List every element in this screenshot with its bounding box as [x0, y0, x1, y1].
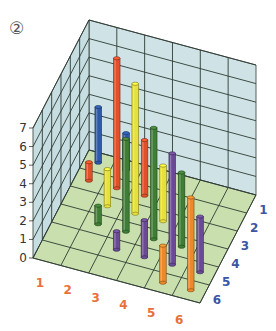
- bar-top: [123, 137, 130, 140]
- bar-body: [141, 140, 148, 196]
- bar-highlight: [151, 128, 152, 239]
- bar-highlight: [87, 162, 88, 181]
- bar-top: [104, 168, 111, 171]
- bar-base: [132, 212, 139, 215]
- bar-cylinder: [178, 171, 185, 248]
- bar-base: [160, 220, 167, 223]
- bar-highlight: [170, 153, 171, 264]
- bar3d-chart: 01234567123456123456: [0, 0, 276, 331]
- bar-cylinder: [132, 82, 139, 215]
- x-tick-label: 6: [175, 313, 183, 327]
- bar-top: [169, 152, 176, 155]
- x-tick-label: 5: [147, 306, 155, 320]
- bar-top: [123, 132, 130, 135]
- bar-body: [160, 166, 167, 222]
- bar-cylinder: [95, 204, 102, 226]
- bar-body: [123, 139, 130, 232]
- bar-base: [141, 256, 148, 259]
- depth-tick-label: 2: [250, 221, 258, 235]
- depth-tick-label: 6: [213, 293, 221, 307]
- bar-highlight: [198, 217, 199, 273]
- bar-body: [113, 58, 120, 188]
- bar-cylinder: [104, 168, 111, 208]
- bar-highlight: [96, 206, 97, 225]
- x-tick-label: 4: [119, 298, 127, 312]
- bar-base: [104, 205, 111, 208]
- bar-body: [95, 206, 102, 225]
- bar-highlight: [96, 107, 97, 163]
- bar-top: [113, 230, 120, 233]
- bar-highlight: [142, 220, 143, 257]
- z-tick-label: 1: [19, 232, 27, 246]
- bar-body: [160, 246, 167, 283]
- bar-cylinder: [187, 196, 194, 292]
- bar-top: [95, 204, 102, 207]
- z-tick-label: 5: [19, 158, 27, 172]
- depth-tick-label: 3: [241, 239, 249, 253]
- bar-highlight: [161, 246, 162, 283]
- bar-cylinder: [169, 152, 176, 267]
- bar-highlight: [114, 58, 115, 188]
- bar-body: [150, 128, 157, 239]
- bar-top: [141, 219, 148, 222]
- bar-body: [141, 220, 148, 257]
- bar-cylinder: [113, 57, 120, 190]
- x-tick-label: 1: [36, 276, 44, 290]
- bar-body: [86, 162, 93, 181]
- bar-body: [132, 84, 139, 214]
- bar-base: [197, 271, 204, 274]
- z-tick-label: 7: [19, 121, 27, 135]
- bar-base: [95, 223, 102, 226]
- bar-cylinder: [197, 215, 204, 274]
- bar-highlight: [114, 231, 115, 250]
- bar-top: [141, 138, 148, 141]
- z-tick-label: 3: [19, 195, 27, 209]
- bar-base: [169, 263, 176, 266]
- bar-body: [104, 169, 111, 206]
- bar-highlight: [179, 172, 180, 246]
- depth-tick-label: 5: [222, 275, 230, 289]
- bar-body: [187, 197, 194, 290]
- bar-base: [95, 161, 102, 164]
- bar-cylinder: [141, 138, 148, 197]
- z-tick-label: 0: [19, 251, 27, 265]
- z-tick-label: 4: [19, 177, 27, 191]
- bar-top: [187, 196, 194, 199]
- bar-base: [113, 187, 120, 190]
- bar-highlight: [142, 140, 143, 196]
- bar-cylinder: [123, 137, 130, 233]
- bar-top: [160, 244, 167, 247]
- bar-base: [160, 281, 167, 284]
- depth-tick-label: 4: [231, 257, 239, 271]
- bar-cylinder: [160, 164, 167, 223]
- bar-top: [113, 57, 120, 60]
- bar-top: [95, 105, 102, 108]
- depth-tick-label: 1: [259, 203, 267, 217]
- bar-body: [197, 217, 204, 273]
- bar-highlight: [188, 197, 189, 290]
- bar-cylinder: [86, 161, 93, 183]
- bar-cylinder: [160, 244, 167, 284]
- bar-base: [178, 245, 185, 248]
- bar-base: [86, 179, 93, 182]
- bar-base: [113, 248, 120, 251]
- z-tick-label: 2: [19, 214, 27, 228]
- bar-top: [150, 126, 157, 129]
- bar-top: [132, 82, 139, 85]
- bar-base: [150, 238, 157, 241]
- bar-top: [160, 164, 167, 167]
- x-tick-label: 2: [64, 283, 72, 297]
- bar-body: [169, 153, 176, 264]
- bar-cylinder: [95, 105, 102, 164]
- bar-top: [178, 171, 185, 174]
- bar-top: [197, 215, 204, 218]
- bar-highlight: [161, 166, 162, 222]
- bar-highlight: [133, 84, 134, 214]
- bar-cylinder: [150, 126, 157, 241]
- bar-highlight: [105, 169, 106, 206]
- bar-base: [123, 230, 130, 233]
- bar-body: [178, 172, 185, 246]
- bar-cylinder: [141, 219, 148, 259]
- bar-base: [141, 194, 148, 197]
- bar-top: [86, 161, 93, 164]
